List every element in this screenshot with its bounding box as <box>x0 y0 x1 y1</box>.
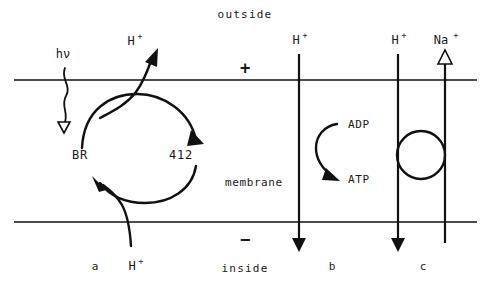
label-sodium-c-text: Na <box>434 33 448 47</box>
label-proton-outside-a: H + <box>127 32 142 48</box>
proton-channel-c-arrowhead-icon <box>391 238 405 252</box>
panel-label-a: a <box>92 260 99 273</box>
figure-canvas: outside inside membrane + − hν H + <box>0 0 490 286</box>
label-proton-b-text: H <box>292 33 299 47</box>
label-outside: outside <box>218 8 273 21</box>
panel-label-b: b <box>329 260 336 273</box>
charge-positive-outer: + <box>240 58 250 78</box>
proton-efflux-arrowhead-icon <box>145 48 158 67</box>
panel-a-group: hν H + H + BR 412 a <box>56 32 204 273</box>
label-atp: ATP <box>348 173 370 186</box>
label-sodium-c: Na + <box>434 31 459 47</box>
label-adp: ADP <box>348 118 370 131</box>
label-proton-outside-a-sup: + <box>138 32 143 41</box>
photon-wavy-arrow <box>64 68 68 124</box>
label-proton-inside-a-text: H <box>128 259 135 273</box>
label-proton-inside-a-sup: + <box>139 257 144 266</box>
label-proton-outside-a-text: H <box>127 34 134 48</box>
photon-arrowhead-icon <box>58 122 70 133</box>
label-photon-hv: hν <box>56 47 70 61</box>
proton-influx-arrow <box>103 185 131 246</box>
label-inside: inside <box>222 262 269 275</box>
sodium-channel-arrowhead-icon <box>438 50 452 64</box>
photocycle-upper-arc <box>82 94 196 148</box>
proton-channel-b-arrowhead-icon <box>292 238 306 252</box>
label-proton-c-sup: + <box>402 31 407 40</box>
label-proton-inside-a: H + <box>128 257 143 273</box>
photocycle-lower-arrowhead-icon <box>92 176 106 192</box>
panel-c-group: H + Na + c <box>391 31 459 273</box>
photocycle-lower-arc <box>100 166 196 203</box>
adp-to-atp-arrow <box>316 124 337 176</box>
panel-b-group: H + ADP ATP b <box>292 31 370 273</box>
panel-label-c: c <box>420 260 427 273</box>
charge-negative-inner: − <box>240 229 250 249</box>
antiporter-carrier-circle <box>397 131 445 179</box>
label-proton-c-text: H <box>391 33 398 47</box>
label-state-412: 412 <box>169 148 193 162</box>
label-membrane: membrane <box>225 176 283 189</box>
membrane-transport-diagram: outside inside membrane + − hν H + <box>0 0 490 286</box>
photocycle-upper-arrowhead-icon <box>187 130 204 146</box>
label-proton-b-sup: + <box>303 31 308 40</box>
label-proton-c: H + <box>391 31 406 47</box>
label-proton-b: H + <box>292 31 307 47</box>
label-sodium-c-sup: + <box>454 31 459 40</box>
proton-efflux-arrow <box>100 58 152 118</box>
label-state-br: BR <box>72 148 88 162</box>
